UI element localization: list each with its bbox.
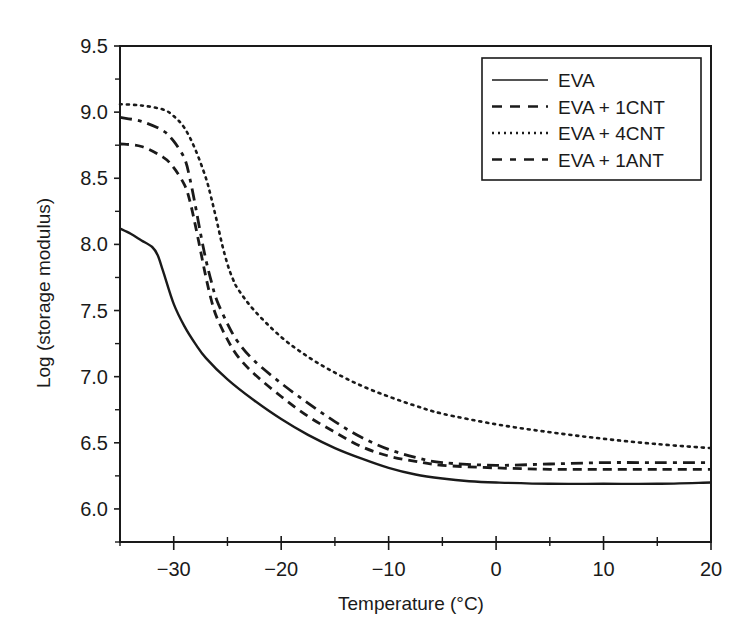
series-eva: [120, 229, 711, 484]
y-tick-label: 7.5: [80, 300, 108, 322]
y-tick-label: 7.0: [80, 366, 108, 388]
chart-svg: 6.06.57.07.58.08.59.09.5 −30−20−1001020 …: [0, 0, 752, 643]
legend-label: EVA: [558, 70, 595, 91]
x-tick-label: 0: [491, 558, 502, 580]
y-tick-label: 6.0: [80, 498, 108, 520]
x-axis-label: Temperature (°C): [338, 593, 484, 614]
y-tick-label: 9.5: [80, 35, 108, 57]
x-tick-label: 10: [592, 558, 614, 580]
chart: 6.06.57.07.58.08.59.09.5 −30−20−1001020 …: [0, 0, 752, 643]
legend-label: EVA + 4CNT: [558, 123, 665, 144]
x-tick-label: −30: [157, 558, 191, 580]
y-tick-label: 8.0: [80, 233, 108, 255]
legend-label: EVA + 1ANT: [558, 150, 664, 171]
y-axis: 6.06.57.07.58.08.59.09.5: [80, 35, 120, 542]
legend: EVAEVA + 1CNTEVA + 4CNTEVA + 1ANT: [482, 58, 701, 180]
x-tick-label: −10: [372, 558, 406, 580]
y-tick-label: 6.5: [80, 432, 108, 454]
y-axis-label: Log (storage modulus): [33, 198, 54, 388]
y-tick-label: 9.0: [80, 101, 108, 123]
legend-label: EVA + 1CNT: [558, 97, 665, 118]
x-tick-label: 20: [700, 558, 722, 580]
x-tick-label: −20: [264, 558, 298, 580]
y-tick-label: 8.5: [80, 167, 108, 189]
